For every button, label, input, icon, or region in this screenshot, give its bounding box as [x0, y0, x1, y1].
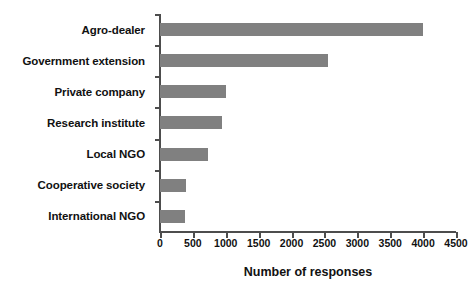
value-axis-tick-label: 1500	[247, 237, 270, 249]
bar-band	[160, 170, 456, 201]
category-label-research-institute: Research institute	[47, 117, 145, 129]
category-label-international-ngo: International NGO	[48, 210, 145, 222]
category-label-government-extension: Government extension	[22, 55, 145, 67]
value-axis-tick-label: 3500	[379, 237, 402, 249]
category-label-row: Government extension	[0, 45, 152, 76]
category-axis-tick	[155, 76, 160, 78]
plot-area: 050010001500200025003000350040004500	[160, 14, 456, 232]
value-axis-tick-label: 0	[157, 237, 163, 249]
category-label-row: Research institute	[0, 107, 152, 138]
bar-band	[160, 45, 456, 76]
value-axis-title: Number of responses	[160, 265, 456, 279]
bar-private-company	[160, 85, 226, 98]
category-label-agro-dealer: Agro-dealer	[82, 24, 145, 36]
category-label-row: International NGO	[0, 201, 152, 232]
bar-band	[160, 107, 456, 138]
category-axis-tick	[155, 201, 160, 203]
category-axis-tick	[155, 45, 160, 47]
value-axis-tick-label: 4000	[411, 237, 434, 249]
value-axis-tick-label: 500	[184, 237, 202, 249]
bar-agro-dealer	[160, 23, 423, 36]
bar-band	[160, 201, 456, 232]
value-axis-tick-label: 2000	[280, 237, 303, 249]
value-axis-tick-label: 3000	[346, 237, 369, 249]
bar-local-ngo	[160, 148, 208, 161]
bar-research-institute	[160, 116, 222, 129]
category-label-private-company: Private company	[54, 86, 145, 98]
category-axis-tick	[155, 139, 160, 141]
category-label-local-ngo: Local NGO	[86, 148, 145, 160]
category-label-row: Agro-dealer	[0, 14, 152, 45]
category-label-cooperative-society: Cooperative society	[38, 179, 145, 191]
bar-band	[160, 76, 456, 107]
category-label-row: Cooperative society	[0, 170, 152, 201]
value-axis-tick-label: 1000	[214, 237, 237, 249]
bar-cooperative-society	[160, 179, 186, 192]
bar-chart-figure: Agro-dealer Government extension Private…	[0, 0, 468, 293]
category-label-row: Local NGO	[0, 139, 152, 170]
bar-band	[160, 139, 456, 170]
category-label-row: Private company	[0, 76, 152, 107]
bar-government-extension	[160, 54, 328, 67]
bar-international-ngo	[160, 210, 185, 223]
value-axis-tick-label: 2500	[313, 237, 336, 249]
bar-band	[160, 14, 456, 45]
value-axis-tick-label: 4500	[444, 237, 467, 249]
category-axis-tick	[155, 14, 160, 16]
category-axis-tick	[155, 170, 160, 172]
category-axis-tick	[155, 107, 160, 109]
category-axis-labels: Agro-dealer Government extension Private…	[0, 14, 152, 232]
